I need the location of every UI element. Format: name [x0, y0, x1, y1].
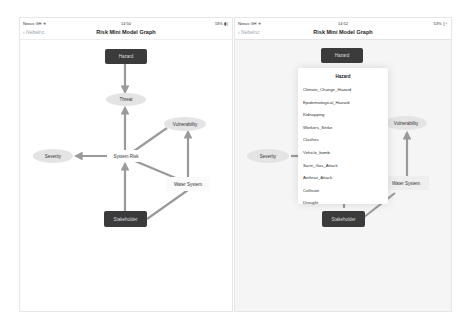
popup-item[interactable]: Climate_Change_Hazard: [298, 84, 388, 97]
node-water-system[interactable]: Water System: [383, 176, 429, 190]
node-threat[interactable]: Threat: [106, 93, 146, 106]
popup-item[interactable]: Kidnapping: [298, 109, 388, 122]
popup-item[interactable]: Sarin_Gas_Attack: [298, 160, 388, 173]
screen-graph-popup: Nexus GH ✈ 14:52 53% ▯ › ‹ Nebelnc Risk …: [234, 17, 452, 312]
popup-item[interactable]: Clashes: [298, 134, 388, 147]
node-hazard[interactable]: Hazard: [321, 48, 363, 63]
popup-title: Hazard: [298, 68, 388, 84]
popup-item[interactable]: Anthrax_Attack: [298, 172, 388, 185]
node-water-system[interactable]: Water System: [166, 177, 210, 191]
node-severity[interactable]: Severity: [247, 149, 289, 163]
node-vulnerability[interactable]: Vulnerability: [164, 117, 206, 131]
node-system-risk[interactable]: System Risk: [107, 150, 145, 162]
popup-item[interactable]: Vehicle_bomb: [298, 147, 388, 160]
node-vulnerability[interactable]: Vulnerability: [385, 116, 427, 130]
node-hazard[interactable]: Hazard: [105, 49, 147, 64]
popup-item[interactable]: Workers_Strike: [298, 122, 388, 135]
screen-graph: Nexus GH ✈ 14:50 53% ▮▯ ‹ Nebelnc Risk M…: [19, 17, 233, 312]
node-stakeholder[interactable]: Stakeholder: [322, 211, 365, 227]
popup-item[interactable]: Epidemiological_Hazard: [298, 97, 388, 110]
hazard-type-popup: Hazard Climate_Change_Hazard Epidemiolog…: [298, 68, 388, 204]
node-severity[interactable]: Severity: [33, 149, 73, 163]
node-stakeholder[interactable]: Stakeholder: [104, 211, 147, 227]
popup-item[interactable]: Collision: [298, 185, 388, 198]
popup-item[interactable]: Drought: [298, 197, 388, 210]
